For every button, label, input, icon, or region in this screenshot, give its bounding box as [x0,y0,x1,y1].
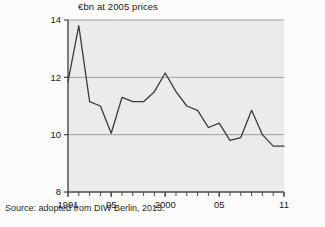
x-axis-tick-label: 11 [279,199,289,210]
y-axis-tick-label: 14 [50,14,61,25]
line-chart-plot: 810121419919520000511 [0,0,325,227]
y-axis-tick-label: 8 [56,186,61,197]
source-note: Source: adopted from DIW Berlin, 2013. [5,203,165,213]
y-axis-tick-label: 10 [50,129,61,140]
y-axis-tick-label: 12 [50,72,61,83]
x-axis-tick-label: 05 [214,199,225,210]
chart-figure: €bn at 2005 prices 810121419919520000511… [0,0,325,227]
